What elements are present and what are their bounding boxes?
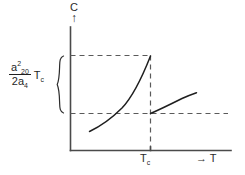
disordered-phase-curve (151, 93, 197, 114)
jump-height-annotation: a220 2a4 Tc (9, 62, 44, 87)
tick-subscript: c (147, 159, 151, 166)
denominator-subscript: 4 (24, 82, 28, 89)
heat-capacity-vs-temperature-figure: C ↑ a220 2a4 Tc Tc → T (0, 0, 245, 175)
x-axis-label: → T (196, 152, 217, 164)
figure-canvas (0, 0, 245, 175)
numerator-superscript: 2 (17, 60, 21, 67)
denominator-base: 2a (12, 75, 24, 87)
multiplier-base: T (34, 69, 41, 81)
multiplier-subscript: c (41, 76, 45, 83)
fraction-numerator: a220 (9, 62, 31, 74)
ordered-phase-curve (90, 56, 151, 132)
annotation-multiplier: Tc (34, 69, 44, 81)
tick-base: T (140, 152, 147, 164)
jump-height-fraction: a220 2a4 (9, 62, 31, 87)
jump-height-brace (57, 56, 63, 113)
y-axis-arrow-icon: ↑ (67, 12, 81, 24)
x-axis-tick-label-tc: Tc (140, 152, 150, 164)
fraction-denominator: 2a4 (10, 75, 30, 87)
